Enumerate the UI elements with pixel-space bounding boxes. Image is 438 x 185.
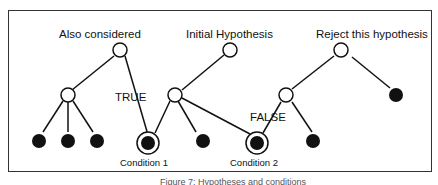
label-true: TRUE	[115, 91, 146, 103]
figure-caption: Figure 7: Hypotheses and conditions	[160, 177, 306, 185]
node-reject	[334, 43, 348, 57]
label-also-considered: Also considered	[59, 28, 141, 40]
label-condition1: Condition 1	[120, 157, 168, 168]
label-initial-hypothesis: Initial Hypothesis	[186, 28, 273, 40]
label-reject: Reject this hypothesis	[316, 28, 428, 40]
label-condition2: Condition 2	[230, 157, 278, 168]
node-also-considered	[113, 43, 127, 57]
node-initial-hypothesis	[223, 43, 237, 57]
label-false: FALSE	[250, 111, 286, 123]
